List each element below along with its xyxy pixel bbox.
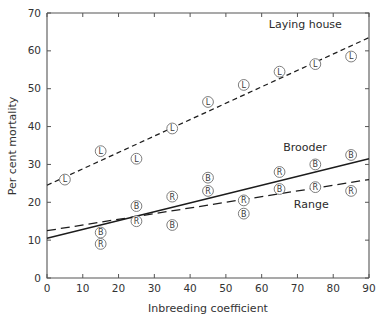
data-point-B: B [310,159,321,170]
y-tick-label: 30 [28,158,41,170]
marker-label: L [98,147,103,156]
data-point-B: B [238,208,249,219]
x-tick-label: 90 [362,282,375,294]
x-tick-label: 30 [148,282,161,294]
x-tick-label: 20 [112,282,125,294]
marker-label: B [313,160,319,169]
x-tick-label: 40 [183,282,196,294]
data-point-B: B [274,184,285,195]
marker-label: B [277,185,283,194]
data-point-B: B [131,201,142,212]
data-point-R: R [346,186,357,197]
x-tick-label: 70 [291,282,304,294]
marker-label: L [134,155,139,164]
y-tick-label: 60 [28,44,41,56]
y-axis-title: Per cent mortality [6,96,19,195]
data-point-R: R [203,186,214,197]
y-tick-label: 10 [28,234,41,246]
data-point-R: R [274,167,285,178]
marker-label: B [169,221,175,230]
marker-label: R [205,187,211,196]
data-point-L: L [131,153,142,164]
marker-label: R [241,196,247,205]
data-point-L: L [95,146,106,157]
marker-label: B [348,151,354,160]
data-point-B: B [346,150,357,161]
marker-label: L [242,81,247,90]
x-tick-label: 10 [76,282,89,294]
data-point-L: L [310,59,321,70]
series-label-range: Range [294,198,329,211]
marker-label: R [313,183,319,192]
data-point-R: R [238,195,249,206]
marker-label: R [277,168,283,177]
x-tick-label: 80 [327,282,340,294]
data-point-B: B [95,227,106,238]
marker-label: R [348,187,354,196]
data-point-L: L [203,97,214,108]
data-point-R: R [310,182,321,193]
x-tick-label: 50 [219,282,232,294]
x-tick-label: 60 [255,282,268,294]
y-tick-label: 70 [28,7,41,19]
scatter-plot: 0102030405060708090010203040506070 LLLLL… [0,0,390,324]
data-point-B: B [167,220,178,231]
x-axis-title: Inbreeding coefficient [148,302,269,315]
data-point-R: R [95,239,106,250]
marker-label: B [98,228,104,237]
marker-label: B [241,210,247,219]
marker-label: L [277,68,282,77]
marker-label: L [349,52,354,61]
data-point-L: L [274,66,285,77]
data-point-B: B [203,172,214,183]
data-point-L: L [167,123,178,134]
y-tick-label: 50 [28,82,41,94]
marker-label: L [170,124,175,133]
data-point-R: R [131,216,142,227]
y-tick-label: 20 [28,196,41,208]
data-point-L: L [59,174,70,185]
chart-figure: 0102030405060708090010203040506070 LLLLL… [0,0,390,324]
plot-background [0,0,390,324]
series-label-brooder: Brooder [283,141,327,154]
y-tick-label: 40 [28,120,41,132]
marker-label: L [206,98,211,107]
data-point-L: L [238,80,249,91]
marker-label: L [63,175,68,184]
marker-label: L [313,60,318,69]
x-tick-label: 0 [44,282,51,294]
marker-label: R [98,240,104,249]
y-tick-label: 0 [34,272,41,284]
data-point-L: L [346,51,357,62]
marker-label: R [169,193,175,202]
marker-label: B [134,202,140,211]
marker-label: B [205,174,211,183]
series-label-laying-house: Laying house [269,18,342,31]
data-point-R: R [167,191,178,202]
marker-label: R [134,217,140,226]
